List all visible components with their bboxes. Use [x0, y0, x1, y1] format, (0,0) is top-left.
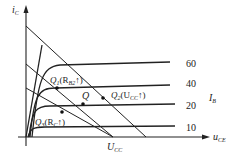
- curve-label-40: 40: [186, 78, 196, 89]
- point-q2: [101, 96, 105, 100]
- characteristic-diagram: iC uCE 60 40 20 10 IB Q1(RB2↑) Q Q2(UCC↑…: [0, 0, 231, 154]
- load-line-q3: [26, 88, 113, 137]
- label-q3: Q3(RC↑): [35, 117, 65, 128]
- label-q2: Q2(UCC↑): [111, 90, 146, 101]
- y-axis-label: iC: [12, 4, 20, 16]
- diagram-svg: iC uCE 60 40 20 10 IB Q1(RB2↑) Q Q2(UCC↑…: [0, 0, 231, 154]
- point-q3: [60, 110, 64, 114]
- label-q1: Q1(RB2↑): [50, 75, 83, 86]
- x-axis-label: uCE: [213, 131, 226, 143]
- curve-label-20: 20: [186, 100, 196, 111]
- point-q: [81, 102, 85, 106]
- point-q1: [55, 86, 59, 90]
- label-q: Q: [82, 90, 90, 101]
- ucc-label: UCC: [107, 141, 123, 153]
- curve-label-10: 10: [186, 122, 196, 133]
- x-axis-arrow-icon: [202, 135, 210, 140]
- ib-label: IB: [208, 92, 216, 104]
- curve-label-60: 60: [186, 58, 196, 69]
- y-axis-arrow-icon: [24, 5, 29, 13]
